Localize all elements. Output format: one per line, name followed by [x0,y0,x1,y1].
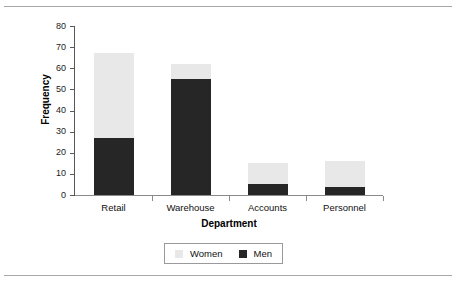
bottom-divider-rule [4,275,452,276]
y-axis-tick-label-text: 40 [6,106,66,115]
bar-stack [94,53,134,195]
bar-segment-men [325,187,365,195]
x-axis-tick [306,196,307,201]
y-axis-tick-label-text: 10 [6,169,66,178]
chart-legend: WomenMen [164,243,283,264]
y-axis-tick-label: 30 [4,127,66,136]
x-axis-category-label: Accounts [229,202,306,213]
y-axis-tick-label-text: 80 [6,22,66,31]
y-axis-tick-label: 50 [4,85,66,94]
legend-item: Women [175,249,223,259]
y-axis-tick-label-text: 20 [6,148,66,157]
bar-stack [325,161,365,195]
x-axis-category-label: Retail [75,202,152,213]
x-axis-tick [229,196,230,201]
y-axis-tick [70,195,75,196]
legend-swatch-icon [239,250,247,258]
y-axis-tick-label: 0 [4,191,66,200]
y-axis-tick-label-text: 30 [6,127,66,136]
x-axis-title: Department [75,218,383,229]
y-axis-tick-label-text: 60 [6,64,66,73]
chart-figure: 01020304050607080 RetailWarehouseAccount… [0,0,456,287]
bar-segment-women [325,161,365,186]
x-axis-tick [383,196,384,201]
x-axis-category-label: Warehouse [152,202,229,213]
plot-area [75,26,383,195]
y-axis-tick-label: 10 [4,169,66,178]
legend-item-label: Women [190,249,223,259]
bar-stack [248,163,288,195]
bar-segment-men [171,79,211,195]
y-axis-tick-label: 40 [4,106,66,115]
y-axis-tick-label: 70 [4,43,66,52]
y-axis-tick-label-text: 0 [6,191,66,200]
y-axis-title: Frequency [40,45,51,155]
y-axis-tick-label: 60 [4,64,66,73]
y-axis-tick-label: 80 [4,22,66,31]
y-axis-tick-label-text: 70 [6,43,66,52]
bar-segment-women [171,64,211,79]
x-axis-tick [152,196,153,201]
y-axis-tick-label-text: 50 [6,85,66,94]
bar-segment-women [248,163,288,184]
bar-segment-women [94,53,134,138]
bar-segment-men [94,138,134,195]
legend-swatch-icon [175,250,183,258]
bar-stack [171,64,211,195]
legend-item-label: Men [254,249,272,259]
top-divider-rule [4,6,452,7]
x-axis-category-label: Personnel [306,202,383,213]
y-axis-tick-label: 20 [4,148,66,157]
bar-segment-men [248,184,288,195]
legend-item: Men [239,249,272,259]
